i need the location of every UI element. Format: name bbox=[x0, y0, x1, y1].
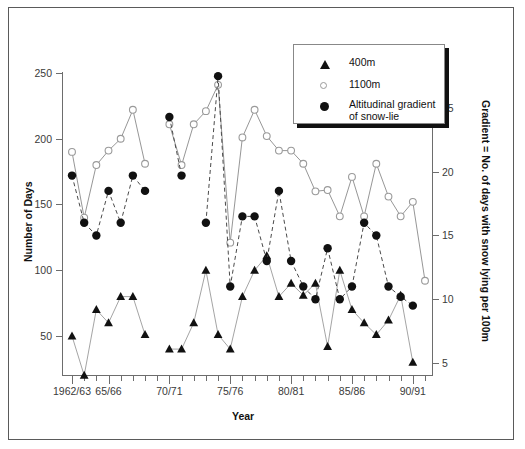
series-line bbox=[72, 110, 145, 218]
data-point-1100m bbox=[349, 173, 356, 180]
data-point-gradient bbox=[323, 244, 331, 252]
data-point-gradient bbox=[104, 187, 112, 195]
data-point-1100m bbox=[129, 106, 136, 113]
data-point-gradient bbox=[238, 212, 246, 220]
data-point-400m bbox=[287, 279, 296, 287]
data-point-1100m bbox=[93, 162, 100, 169]
data-point-gradient bbox=[141, 187, 149, 195]
legend: 400m 1100m Altitudinal gradient of snow-… bbox=[293, 44, 445, 124]
triangle-marker-icon bbox=[320, 58, 334, 72]
data-point-400m bbox=[141, 330, 150, 338]
data-point-400m bbox=[68, 331, 77, 339]
data-point-400m bbox=[92, 305, 101, 313]
series-line bbox=[72, 297, 145, 376]
data-point-1100m bbox=[397, 213, 404, 220]
data-point-400m bbox=[128, 292, 137, 300]
data-point-400m bbox=[116, 292, 125, 300]
data-point-1100m bbox=[276, 147, 283, 154]
data-point-1100m bbox=[300, 160, 307, 167]
data-point-gradient bbox=[250, 212, 258, 220]
filled-circle-marker-icon bbox=[320, 101, 334, 115]
series-line bbox=[169, 117, 181, 176]
series-400m bbox=[68, 251, 418, 379]
data-point-gradient bbox=[299, 282, 307, 290]
chart-screenshot: 250 200 150 100 50 25 20 15 10 5 Number … bbox=[0, 0, 525, 449]
data-point-1100m bbox=[105, 147, 112, 154]
data-point-gradient bbox=[275, 187, 283, 195]
data-point-400m bbox=[189, 318, 198, 326]
data-point-1100m bbox=[336, 213, 343, 220]
data-point-gradient bbox=[80, 219, 88, 227]
data-point-gradient bbox=[409, 301, 417, 309]
data-point-1100m bbox=[422, 277, 429, 284]
data-point-1100m bbox=[312, 188, 319, 195]
data-point-400m bbox=[238, 292, 247, 300]
data-point-gradient bbox=[202, 219, 210, 227]
data-point-400m bbox=[384, 316, 393, 324]
data-point-1100m bbox=[385, 193, 392, 200]
data-point-gradient bbox=[348, 282, 356, 290]
data-point-1100m bbox=[409, 198, 416, 205]
data-point-1100m bbox=[69, 149, 76, 156]
legend-label-400m: 400m bbox=[349, 57, 375, 69]
data-point-gradient bbox=[68, 171, 76, 179]
data-point-gradient bbox=[165, 113, 173, 121]
data-point-1100m bbox=[324, 187, 331, 194]
data-point-400m bbox=[201, 266, 210, 274]
data-point-1100m bbox=[239, 134, 246, 141]
data-point-1100m bbox=[288, 147, 295, 154]
data-point-400m bbox=[80, 371, 89, 379]
data-point-gradient bbox=[92, 231, 100, 239]
data-point-1100m bbox=[263, 133, 270, 140]
data-point-400m bbox=[177, 345, 186, 353]
data-point-1100m bbox=[251, 106, 258, 113]
data-point-gradient bbox=[226, 282, 234, 290]
data-point-gradient bbox=[129, 171, 137, 179]
data-point-1100m bbox=[373, 160, 380, 167]
data-point-gradient bbox=[311, 295, 319, 303]
data-point-gradient bbox=[177, 171, 185, 179]
data-point-gradient bbox=[287, 257, 295, 265]
data-point-gradient bbox=[214, 72, 222, 80]
data-point-gradient bbox=[384, 282, 392, 290]
legend-label-gradient: Altitudinal gradient of snow-lie bbox=[349, 99, 435, 122]
data-point-gradient bbox=[372, 231, 380, 239]
open-circle-marker-icon bbox=[320, 80, 334, 94]
data-point-gradient bbox=[116, 219, 124, 227]
data-point-1100m bbox=[190, 121, 197, 128]
data-point-400m bbox=[348, 305, 357, 313]
data-point-400m bbox=[323, 342, 332, 350]
data-point-1100m bbox=[117, 135, 124, 142]
legend-label-1100m: 1100m bbox=[349, 79, 380, 91]
data-point-400m bbox=[408, 358, 417, 366]
data-point-400m bbox=[165, 345, 174, 353]
data-point-400m bbox=[214, 330, 223, 338]
data-point-1100m bbox=[142, 160, 149, 167]
data-point-1100m bbox=[202, 108, 209, 115]
plot-area: 250 200 150 100 50 25 20 15 10 5 Number … bbox=[0, 0, 525, 449]
data-point-gradient bbox=[360, 219, 368, 227]
data-point-400m bbox=[335, 266, 344, 274]
data-point-gradient bbox=[336, 295, 344, 303]
data-point-gradient bbox=[396, 293, 404, 301]
data-point-gradient bbox=[263, 257, 271, 265]
